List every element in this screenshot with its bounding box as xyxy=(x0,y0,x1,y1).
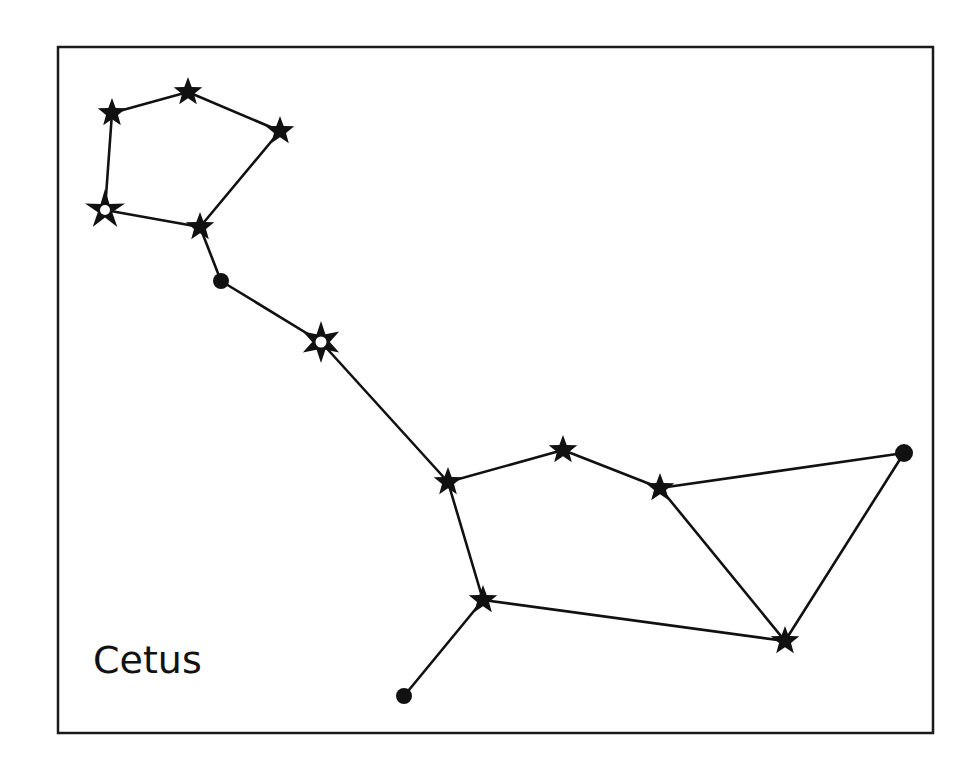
constellation-line xyxy=(660,488,785,641)
constellation-lines xyxy=(105,92,904,696)
constellation-name-label: Cetus xyxy=(93,638,202,682)
constellation-diagram: Cetus xyxy=(0,0,980,770)
constellation-line xyxy=(105,210,200,227)
five-point-star-icon xyxy=(266,116,295,143)
constellation-line xyxy=(483,600,785,641)
constellation-line xyxy=(404,600,483,696)
five-point-star-icon xyxy=(646,473,675,500)
star-dot-icon xyxy=(396,688,412,704)
constellation-line xyxy=(188,92,280,131)
diagram-frame xyxy=(58,47,933,733)
constellation-line xyxy=(321,342,448,482)
star-dot-icon xyxy=(213,273,229,289)
constellation-line xyxy=(785,453,904,641)
constellation-line xyxy=(200,131,280,227)
five-point-star-icon xyxy=(469,585,498,612)
constellation-line xyxy=(448,482,483,600)
five-point-star-hollow-icon xyxy=(85,189,125,227)
star-dot-icon xyxy=(895,444,913,462)
constellation-line xyxy=(448,450,563,482)
five-point-star-icon xyxy=(549,435,578,462)
five-point-star-icon xyxy=(174,77,203,104)
constellation-stars xyxy=(85,77,913,704)
constellation-line xyxy=(563,450,660,488)
constellation-line xyxy=(660,453,904,488)
